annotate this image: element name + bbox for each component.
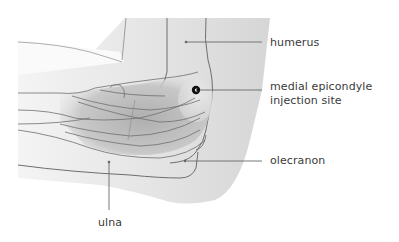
label-humerus: humerus	[270, 36, 319, 50]
elbow-diagram: humerus medial epicondyle injection site…	[0, 0, 399, 242]
label-olecranon: olecranon	[270, 154, 325, 168]
elbow-illustration	[0, 0, 399, 242]
label-medial-epicondyle: medial epicondyle injection site	[270, 80, 372, 108]
label-ulna: ulna	[98, 216, 122, 230]
label-medial-line1: medial epicondyle	[270, 80, 372, 94]
label-medial-line2: injection site	[270, 94, 372, 108]
